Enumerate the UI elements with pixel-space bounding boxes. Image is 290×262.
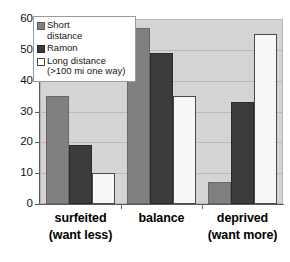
bar-2-0 xyxy=(208,182,231,204)
y-tick-label-20: 20 xyxy=(0,136,33,148)
bar-group-2 xyxy=(202,19,283,204)
category-label-line: deprived xyxy=(196,210,289,227)
bar-2-2 xyxy=(254,34,277,204)
legend-label-long-distance: Long distance (>100 mi one way) xyxy=(47,56,125,77)
y-tick-mark-30 xyxy=(35,112,39,113)
legend-swatch-icon-ramon xyxy=(37,45,45,53)
y-tick-mark-10 xyxy=(35,173,39,174)
legend-item-ramon: Ramon xyxy=(37,43,131,54)
legend-item-short-distance: Short distance xyxy=(37,20,131,41)
legend-label-short-distance: Short distance xyxy=(47,20,82,41)
legend-swatch-icon-long-distance xyxy=(37,58,45,66)
bar-1-1 xyxy=(150,53,173,204)
y-tick-label-10: 10 xyxy=(0,167,33,179)
category-label-0: surfeited(want less) xyxy=(34,210,127,244)
group-separator-0 xyxy=(121,204,122,209)
x-axis-line xyxy=(39,204,284,205)
y-tick-label-40: 40 xyxy=(0,75,33,87)
bar-0-1 xyxy=(69,145,92,204)
group-separator-1 xyxy=(202,204,203,209)
legend-label-ramon: Ramon xyxy=(47,43,78,54)
bar-0-2 xyxy=(92,173,115,204)
y-tick-mark-20 xyxy=(35,142,39,143)
category-label-1: balance xyxy=(115,210,208,227)
y-tick-label-30: 30 xyxy=(0,106,33,118)
y-tick-mark-0 xyxy=(35,204,39,205)
bar-2-1 xyxy=(231,102,254,204)
y-tick-label-50: 50 xyxy=(0,44,33,56)
category-label-line: surfeited xyxy=(34,210,127,227)
category-label-line: (want less) xyxy=(34,227,127,244)
legend: Short distance Ramon Long distance (>100… xyxy=(33,16,136,82)
category-label-line: (want more) xyxy=(196,227,289,244)
bar-1-2 xyxy=(173,96,196,204)
bar-chart: 6050403020100 Short distance Ramon Long … xyxy=(0,0,290,262)
legend-item-long-distance: Long distance (>100 mi one way) xyxy=(37,56,131,77)
bar-0-0 xyxy=(46,96,69,204)
y-tick-label-0: 0 xyxy=(0,198,33,210)
category-label-line: balance xyxy=(115,210,208,227)
y-tick-label-60: 60 xyxy=(0,13,33,25)
legend-swatch-icon-short-distance xyxy=(37,22,45,30)
category-label-2: deprived(want more) xyxy=(196,210,289,244)
x-axis-category-labels: surfeited(want less)balancedeprived(want… xyxy=(40,210,283,258)
